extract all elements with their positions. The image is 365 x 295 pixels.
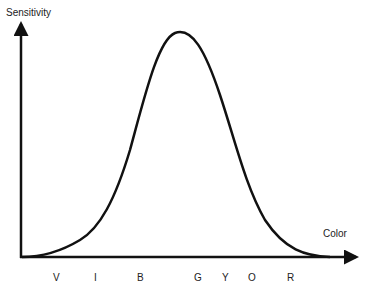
tick-label-v: V	[53, 272, 60, 283]
x-axis-label: Color	[323, 228, 348, 239]
y-axis-label: Sensitivity	[6, 7, 51, 18]
sensitivity-curve	[22, 32, 330, 257]
tick-label-o: O	[248, 272, 256, 283]
tick-label-i: I	[94, 272, 97, 283]
tick-label-g: G	[194, 272, 202, 283]
sensitivity-diagram: Sensitivity Color V I B G Y O R	[0, 0, 365, 295]
tick-label-y: Y	[222, 272, 229, 283]
tick-label-r: R	[287, 272, 294, 283]
tick-label-b: B	[137, 272, 144, 283]
